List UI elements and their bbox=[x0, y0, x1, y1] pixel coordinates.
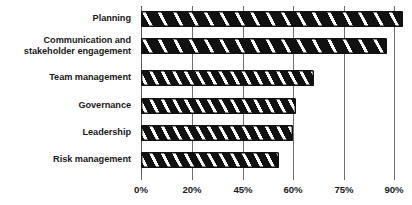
category-label-governance: Governance bbox=[0, 100, 131, 111]
category-label-team-management: Team management bbox=[0, 72, 131, 83]
category-label-line: Risk management bbox=[53, 154, 131, 164]
bar-edge bbox=[141, 11, 403, 27]
tick-label-75: 75% bbox=[322, 184, 366, 195]
value-axis: 0% 20% 45% 60% 75% 90% bbox=[141, 175, 412, 205]
category-label-risk-management: Risk management bbox=[0, 154, 131, 165]
tick-label-0: 0% bbox=[119, 184, 163, 195]
tick-mark-0 bbox=[141, 175, 142, 180]
category-label-leadership: Leadership bbox=[0, 127, 131, 138]
bar-edge bbox=[141, 70, 314, 86]
tick-mark-45 bbox=[243, 175, 244, 180]
tick-label-60: 60% bbox=[271, 184, 315, 195]
bar-team-management bbox=[141, 70, 314, 86]
bar-edge bbox=[141, 98, 296, 114]
category-label-line: Governance bbox=[78, 100, 131, 110]
category-axis: Planning Communication and stakeholder e… bbox=[0, 0, 136, 175]
bar-edge bbox=[141, 125, 293, 141]
bar-edge bbox=[141, 38, 387, 54]
tick-mark-90 bbox=[394, 175, 395, 180]
bar-governance bbox=[141, 98, 296, 114]
category-label-line: Team management bbox=[49, 72, 131, 82]
tick-mark-20 bbox=[192, 175, 193, 180]
tick-mark-60 bbox=[293, 175, 294, 180]
bar-edge bbox=[141, 152, 279, 168]
tick-label-90: 90% bbox=[372, 184, 412, 195]
bar-communication-and-stakeholder-engagement bbox=[141, 38, 387, 54]
category-label-planning: Planning bbox=[0, 13, 131, 24]
tick-label-20: 20% bbox=[170, 184, 214, 195]
category-label-line: Leadership bbox=[82, 127, 131, 137]
category-label-line: Communication and bbox=[0, 35, 131, 46]
bar-risk-management bbox=[141, 152, 279, 168]
bar-planning bbox=[141, 11, 403, 27]
bar-leadership bbox=[141, 125, 293, 141]
category-label-line: Planning bbox=[93, 13, 131, 23]
category-label-line: stakeholder engagement bbox=[0, 46, 131, 57]
tick-mark-75 bbox=[344, 175, 345, 180]
bars-layer bbox=[141, 0, 412, 175]
tick-label-45: 45% bbox=[221, 184, 265, 195]
bar-chart: Planning Communication and stakeholder e… bbox=[0, 0, 412, 205]
category-label-communication-and-stakeholder-engagement: Communication and stakeholder engagement bbox=[0, 35, 131, 56]
